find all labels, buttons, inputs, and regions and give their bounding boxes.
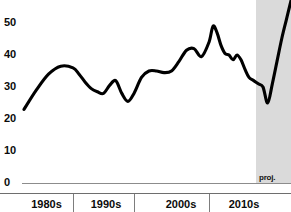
- x-tick-1980s-1990s: [73, 194, 74, 212]
- axis-baseline: [22, 183, 291, 184]
- x-axis-label-1990s: 1990s: [78, 196, 134, 212]
- series-line: [0, 0, 291, 194]
- x-tick-1990s-2000s: [134, 194, 135, 212]
- x-tick-2000s-2010s: [209, 194, 210, 212]
- axis-outer-line: [0, 193, 291, 194]
- x-axis-label-2010s: 2010s: [216, 196, 272, 212]
- x-axis-label-1980s: 1980s: [20, 196, 73, 212]
- plot-area: 50 40 30 20 10 0 proj.: [0, 0, 291, 194]
- line-chart: 50 40 30 20 10 0 proj. 1980s 1990s 2000s…: [0, 0, 291, 212]
- x-axis-label-2000s: 2000s: [153, 196, 209, 212]
- projection-label: proj.: [259, 174, 275, 182]
